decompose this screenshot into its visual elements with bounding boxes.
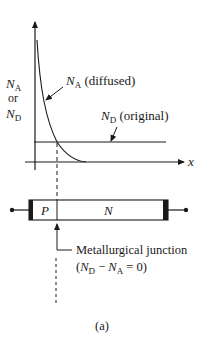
n-region-label: N [103,203,114,218]
na-diffused-curve [37,40,86,162]
nd-pointer-arrow [111,127,117,141]
device-body [29,200,168,220]
y-axis-label-or: or [8,91,18,105]
pn-junction-diagram: x NA or ND NA (diffused) ND (original) P… [0,0,207,347]
figure-caption: (a) [95,319,109,333]
pn-device: P N [10,200,188,220]
nd-original-label: ND (original) [100,108,169,125]
x-axis-label: x [187,154,194,169]
na-pointer-arrow [46,87,63,100]
left-contact [29,200,33,220]
junction-pointer-line [57,224,72,250]
na-diffused-label: NA (diffused) [65,73,135,90]
y-axis-label-nd: ND [5,106,22,123]
p-region-label: P [40,203,49,218]
right-contact [163,200,168,220]
junction-label-title: Metallurgical junction [76,243,188,257]
junction-label-equation: (ND − NA = 0) [76,260,147,276]
right-terminal-dot [184,208,188,212]
left-terminal-dot [10,208,14,212]
